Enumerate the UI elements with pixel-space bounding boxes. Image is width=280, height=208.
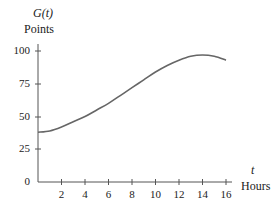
x-tick-label: 8 (122, 188, 142, 200)
x-tick-label: 12 (169, 188, 189, 200)
x-tick-label: 10 (146, 188, 166, 200)
data-line-g (38, 55, 226, 132)
x-tick-label: 4 (75, 188, 95, 200)
x-tick-label: 16 (216, 188, 236, 200)
y-tick-label: 50 (6, 110, 30, 122)
y-tick-label: 0 (6, 175, 30, 187)
x-tick-label: 2 (52, 188, 72, 200)
y-axis-function-label: G(t) (33, 6, 53, 21)
x-axis-unit-label: Hours (241, 179, 270, 194)
y-tick-label: 100 (6, 44, 30, 56)
y-tick-label: 75 (6, 77, 30, 89)
x-tick-label: 14 (193, 188, 213, 200)
y-tick-label: 25 (6, 142, 30, 154)
y-axis-unit-label: Points (24, 22, 54, 37)
x-axis-var-label: t (251, 163, 254, 178)
x-tick-label: 6 (99, 188, 119, 200)
